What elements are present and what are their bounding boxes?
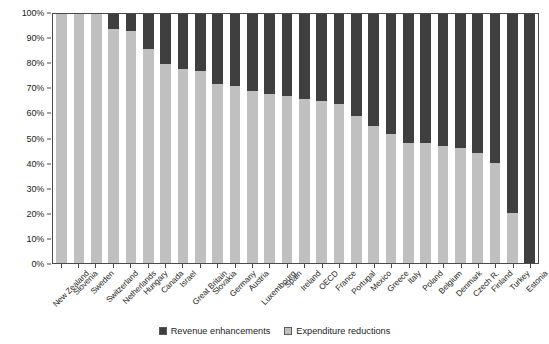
bar-segment-revenue-enhancements bbox=[299, 14, 310, 99]
stacked-bar[interactable] bbox=[472, 14, 483, 263]
stacked-bar[interactable] bbox=[438, 14, 449, 263]
y-axis-tick-label: 70% bbox=[27, 83, 44, 93]
stacked-bar[interactable] bbox=[74, 14, 85, 263]
bar-slot bbox=[209, 14, 226, 263]
y-axis-tick-label: 60% bbox=[27, 108, 44, 118]
legend-label-expenditure-reductions: Expenditure reductions bbox=[296, 326, 390, 336]
y-axis-tick bbox=[47, 163, 51, 164]
stacked-bar[interactable] bbox=[490, 14, 501, 263]
bar-slot bbox=[504, 14, 521, 263]
y-axis-tick bbox=[47, 38, 51, 39]
y-axis-tick-label: 40% bbox=[27, 159, 44, 169]
stacked-bar[interactable] bbox=[91, 14, 102, 263]
x-axis-label-cell: Austria bbox=[243, 268, 260, 328]
x-axis-label-cell: Slovakia bbox=[209, 268, 226, 328]
y-axis-tick-label: 10% bbox=[27, 234, 44, 244]
x-axis-label-cell: Turkey bbox=[504, 268, 521, 328]
x-axis-label-cell: New Zealand bbox=[52, 268, 69, 328]
bar-segment-expenditure-reductions bbox=[212, 84, 223, 263]
x-axis-label-cell: OECD bbox=[313, 268, 330, 328]
bar-slot bbox=[330, 14, 347, 263]
stacked-bar[interactable] bbox=[316, 14, 327, 263]
bar-segment-revenue-enhancements bbox=[316, 14, 327, 101]
x-axis-label-cell: Belgium bbox=[435, 268, 452, 328]
bar-segment-expenditure-reductions bbox=[264, 94, 275, 263]
stacked-bar[interactable] bbox=[247, 14, 258, 263]
bar-slot bbox=[53, 14, 70, 263]
stacked-bar[interactable] bbox=[108, 14, 119, 263]
bar-segment-revenue-enhancements bbox=[334, 14, 345, 104]
stacked-bar[interactable] bbox=[403, 14, 414, 263]
bar-segment-revenue-enhancements bbox=[212, 14, 223, 84]
bar-segment-revenue-enhancements bbox=[403, 14, 414, 143]
bar-slot bbox=[122, 14, 139, 263]
stacked-bar[interactable] bbox=[507, 14, 518, 263]
y-axis-tick-label: 80% bbox=[27, 58, 44, 68]
bar-slot bbox=[382, 14, 399, 263]
stacked-bar[interactable] bbox=[143, 14, 154, 263]
bar-segment-revenue-enhancements bbox=[455, 14, 466, 148]
stacked-bar[interactable] bbox=[178, 14, 189, 263]
stacked-bar[interactable] bbox=[351, 14, 362, 263]
stacked-bar[interactable] bbox=[386, 14, 397, 263]
bar-segment-revenue-enhancements bbox=[524, 14, 535, 263]
bar-segment-expenditure-reductions bbox=[386, 134, 397, 263]
stacked-bar[interactable] bbox=[282, 14, 293, 263]
y-axis-tick bbox=[47, 113, 51, 114]
y-axis-tick bbox=[47, 264, 51, 265]
x-axis-label-cell: Denmark bbox=[452, 268, 469, 328]
stacked-bar[interactable] bbox=[160, 14, 171, 263]
stacked-bar[interactable] bbox=[524, 14, 535, 263]
x-axis-label-cell: Greece bbox=[382, 268, 399, 328]
bars-container bbox=[53, 14, 538, 263]
bar-segment-expenditure-reductions bbox=[143, 49, 154, 263]
bar-slot bbox=[434, 14, 451, 263]
bar-segment-expenditure-reductions bbox=[316, 101, 327, 263]
stacked-bar[interactable] bbox=[230, 14, 241, 263]
bar-segment-revenue-enhancements bbox=[143, 14, 154, 49]
bar-slot bbox=[174, 14, 191, 263]
bar-segment-expenditure-reductions bbox=[230, 86, 241, 263]
stacked-bar[interactable] bbox=[455, 14, 466, 263]
x-axis-label-cell: France bbox=[330, 268, 347, 328]
bar-segment-revenue-enhancements bbox=[507, 14, 518, 213]
y-axis: 100%90%80%70%60%50%40%30%20%10%0% bbox=[0, 13, 50, 264]
bar-segment-expenditure-reductions bbox=[160, 64, 171, 263]
bar-segment-revenue-enhancements bbox=[126, 14, 137, 31]
chart-legend: Revenue enhancements Expenditure reducti… bbox=[0, 326, 549, 336]
bar-segment-expenditure-reductions bbox=[472, 153, 483, 263]
bar-slot bbox=[226, 14, 243, 263]
plot-area bbox=[52, 13, 539, 264]
stacked-bar[interactable] bbox=[299, 14, 310, 263]
bar-segment-revenue-enhancements bbox=[195, 14, 206, 71]
bar-slot bbox=[192, 14, 209, 263]
bar-segment-expenditure-reductions bbox=[56, 14, 67, 263]
bar-segment-expenditure-reductions bbox=[178, 69, 189, 263]
bar-segment-revenue-enhancements bbox=[351, 14, 362, 116]
x-axis-label-cell: Great Britain bbox=[191, 268, 208, 328]
y-axis-tick bbox=[47, 238, 51, 239]
bar-segment-revenue-enhancements bbox=[230, 14, 241, 86]
x-axis-label-cell: Poland bbox=[417, 268, 434, 328]
stacked-bar[interactable] bbox=[264, 14, 275, 263]
bar-slot bbox=[244, 14, 261, 263]
stacked-bar[interactable] bbox=[126, 14, 137, 263]
y-axis-tick-label: 50% bbox=[27, 134, 44, 144]
stacked-bar[interactable] bbox=[420, 14, 431, 263]
stacked-bar[interactable] bbox=[195, 14, 206, 263]
stacked-bar[interactable] bbox=[56, 14, 67, 263]
bar-segment-revenue-enhancements bbox=[160, 14, 171, 64]
bar-segment-expenditure-reductions bbox=[126, 31, 137, 263]
stacked-bar[interactable] bbox=[334, 14, 345, 263]
bar-slot bbox=[278, 14, 295, 263]
bar-segment-expenditure-reductions bbox=[282, 96, 293, 263]
bar-segment-expenditure-reductions bbox=[490, 163, 501, 263]
bar-slot bbox=[313, 14, 330, 263]
x-axis-label-cell: Finland bbox=[487, 268, 504, 328]
stacked-bar[interactable] bbox=[212, 14, 223, 263]
bar-slot bbox=[105, 14, 122, 263]
y-axis-tick-label: 100% bbox=[22, 8, 44, 18]
x-axis-label-cell: Hungary bbox=[139, 268, 156, 328]
bar-slot bbox=[486, 14, 503, 263]
stacked-bar[interactable] bbox=[368, 14, 379, 263]
